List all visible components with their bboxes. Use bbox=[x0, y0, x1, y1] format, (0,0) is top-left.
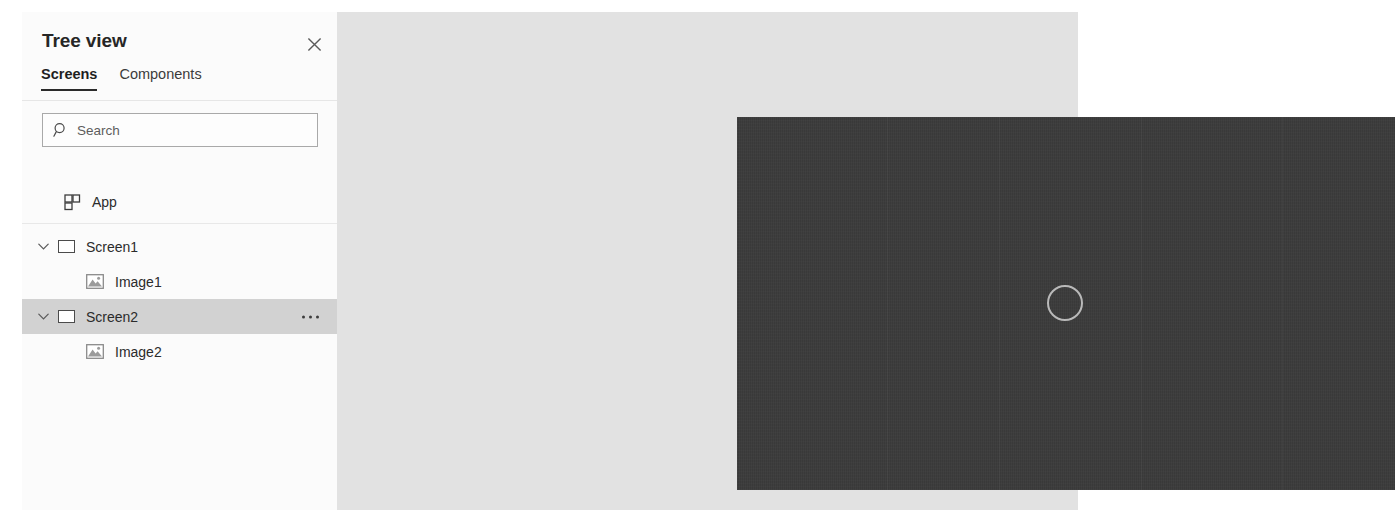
tree-item-label: Screen2 bbox=[86, 309, 138, 325]
tree-view-panel: Tree view Screens Components App bbox=[22, 12, 337, 510]
panel-header: Tree view bbox=[22, 12, 337, 66]
chevron-down-icon[interactable] bbox=[35, 309, 51, 325]
tabs-divider bbox=[22, 100, 337, 101]
tree-item-label: App bbox=[92, 194, 117, 210]
tree-item-image1[interactable]: Image1 bbox=[22, 264, 337, 299]
tree-item-label: Image1 bbox=[115, 274, 162, 290]
tree-item-screen2[interactable]: Screen2 bbox=[22, 299, 337, 334]
canvas-band bbox=[999, 117, 1000, 490]
canvas-band bbox=[1282, 117, 1283, 490]
image-icon bbox=[86, 344, 104, 359]
circle-placeholder-icon bbox=[1047, 285, 1083, 321]
search-box[interactable] bbox=[42, 113, 318, 147]
tree-item-label: Screen1 bbox=[86, 239, 138, 255]
panel-tabs: Screens Components bbox=[22, 66, 337, 100]
search-icon bbox=[53, 122, 69, 138]
canvas-band bbox=[887, 117, 888, 490]
canvas-band bbox=[1141, 117, 1142, 490]
search-input[interactable] bbox=[77, 123, 297, 138]
tree-item-screen1[interactable]: Screen1 bbox=[22, 229, 337, 264]
app-grid-icon bbox=[64, 194, 81, 211]
tab-screens[interactable]: Screens bbox=[41, 66, 97, 91]
app-divider bbox=[22, 223, 337, 224]
tree-item-app[interactable]: App bbox=[22, 184, 337, 220]
screens-tree: Screen1 Image1 Screen2 bbox=[22, 229, 337, 369]
tree-item-image2[interactable]: Image2 bbox=[22, 334, 337, 369]
close-icon[interactable] bbox=[299, 30, 329, 58]
chevron-down-icon[interactable] bbox=[35, 239, 51, 255]
tab-components[interactable]: Components bbox=[119, 66, 201, 91]
canvas-workspace bbox=[337, 12, 1078, 510]
more-options-icon[interactable] bbox=[302, 315, 319, 318]
screen-icon bbox=[58, 240, 75, 253]
image-icon bbox=[86, 274, 104, 289]
screen-icon bbox=[58, 310, 75, 323]
tree-item-label: Image2 bbox=[115, 344, 162, 360]
page-title: Tree view bbox=[42, 30, 127, 52]
